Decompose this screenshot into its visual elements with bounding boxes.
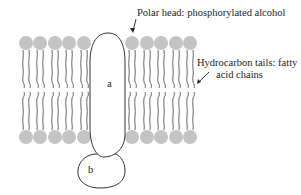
tails-annotation-line1: Hydrocarbon tails: fatty — [197, 57, 298, 68]
lipid-molecule — [154, 92, 168, 144]
protein-b-label: b — [88, 164, 93, 175]
integral-protein-a — [90, 33, 125, 157]
lipid-molecule — [77, 92, 91, 144]
top-leaflet-left — [19, 36, 91, 88]
bottom-leaflet-left — [19, 92, 91, 144]
bottom-leaflet-right — [125, 92, 197, 144]
lipid-molecule — [33, 36, 47, 88]
polar-head-arrow-icon — [130, 19, 136, 33]
lipid-molecule — [62, 92, 76, 144]
tails-arrow-icon — [197, 72, 209, 84]
top-leaflet-right — [125, 36, 197, 88]
protein-a-label: a — [107, 78, 112, 89]
lipid-molecule — [62, 36, 76, 88]
lipid-molecule — [183, 92, 197, 144]
lipid-molecule — [19, 36, 33, 88]
lipid-molecule — [183, 36, 197, 88]
lipid-molecule — [48, 36, 62, 88]
polar-head-annotation: Polar head: phosphorylated alcohol — [137, 7, 286, 18]
lipid-molecule — [48, 92, 62, 144]
lipid-molecule — [33, 92, 47, 144]
tails-annotation-line2: acid chains — [216, 69, 263, 80]
lipid-molecule — [19, 92, 33, 144]
lipid-molecule — [154, 36, 168, 88]
lipid-molecule — [169, 92, 183, 144]
lipid-molecule — [125, 36, 139, 88]
lipid-molecule — [169, 36, 183, 88]
lipid-molecule — [140, 92, 154, 144]
lipid-molecule — [77, 36, 91, 88]
lipid-bilayer-diagram: a b Polar head: phosphorylated alcohol H… — [0, 0, 301, 195]
lipid-molecule — [140, 36, 154, 88]
lipid-molecule — [125, 92, 139, 144]
peripheral-protein-b — [78, 153, 125, 188]
